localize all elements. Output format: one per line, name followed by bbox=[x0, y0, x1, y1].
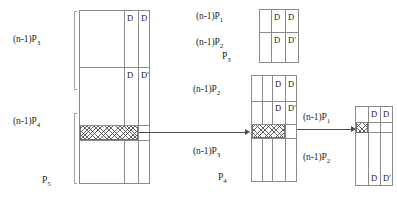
left-brace-tick-bottom bbox=[74, 183, 77, 184]
right-col-sep-2 bbox=[380, 106, 381, 186]
right-label-p1-text: (n-1)P bbox=[303, 112, 327, 122]
mid-top-label-p3: P3 bbox=[222, 52, 231, 62]
left-label-p4-sub: 4 bbox=[37, 121, 40, 129]
mid-top-label-p3-sub: 3 bbox=[227, 56, 230, 64]
right-d-cell-2: D bbox=[383, 110, 389, 119]
mid-top-d-cell-3: D bbox=[274, 36, 280, 45]
left-brace-tick-lowtop bbox=[74, 113, 77, 114]
mid-bot-row-sep-1 bbox=[251, 101, 297, 102]
mid-top-label-p2-sub: 2 bbox=[220, 42, 223, 50]
left-d-cell-4: D' bbox=[141, 71, 149, 80]
left-label-p5: P5 bbox=[42, 176, 51, 186]
mid-top-d-cell-2: D bbox=[288, 13, 294, 22]
right-d-cell-4: D' bbox=[383, 174, 391, 183]
mid-top-d-cell-4: D' bbox=[288, 36, 296, 45]
left-brace-tick-top bbox=[74, 11, 77, 12]
right-label-p1-sub: 1 bbox=[327, 117, 330, 125]
arrow-left-to-middle-head bbox=[245, 129, 250, 135]
mid-top-label-p2: (n-1)P2 bbox=[196, 38, 223, 48]
mid-bottom-label-p4-sub: 4 bbox=[223, 177, 226, 185]
mid-bot-d-cell-4: D' bbox=[288, 104, 296, 113]
mid-bot-d-cell-1: D bbox=[275, 80, 281, 89]
mid-bot-row-sep-3 bbox=[251, 138, 297, 139]
mid-bottom-label-p2-sub: 2 bbox=[217, 89, 220, 97]
mid-bottom-hatched-band bbox=[252, 124, 285, 138]
left-label-p4-text: (n-1)P bbox=[13, 116, 37, 126]
left-row-sep-2 bbox=[79, 125, 150, 126]
mid-top-col-sep-2 bbox=[285, 9, 286, 63]
left-row-sep-1 bbox=[79, 67, 150, 68]
left-label-p3-text: (n-1)P bbox=[13, 34, 37, 44]
mid-bot-d-cell-3: D bbox=[275, 104, 281, 113]
right-d-cell-3: D bbox=[371, 174, 377, 183]
mid-top-label-p1: (n-1)P1 bbox=[196, 12, 223, 22]
left-col-sep-2 bbox=[138, 10, 139, 184]
left-brace-tick-mid bbox=[74, 89, 77, 90]
left-label-p3-sub: 3 bbox=[37, 39, 40, 47]
left-hatched-band bbox=[80, 125, 138, 140]
right-d-cell-1: D bbox=[371, 110, 377, 119]
right-label-p2-text: (n-1)P bbox=[303, 152, 327, 162]
arrow-middle-to-right-line bbox=[297, 129, 351, 130]
mid-bottom-label-p3-text: (n-1)P bbox=[193, 146, 217, 156]
left-d-cell-3: D bbox=[127, 71, 133, 80]
mid-bot-col-sep-3 bbox=[285, 75, 286, 182]
mid-bot-row-sep-2 bbox=[251, 124, 297, 125]
arrow-left-to-middle-line bbox=[139, 132, 245, 133]
left-brace-lower bbox=[74, 113, 75, 183]
right-col-sep-1 bbox=[368, 106, 369, 186]
right-hatched-band bbox=[356, 122, 368, 133]
mid-top-label-p2-text: (n-1)P bbox=[196, 37, 220, 47]
right-label-p2: (n-1)P2 bbox=[303, 153, 330, 163]
mid-bottom-label-p3-sub: 3 bbox=[217, 151, 220, 159]
mid-top-col-sep-1 bbox=[271, 9, 272, 63]
right-row-sep-2 bbox=[355, 122, 393, 123]
left-d-cell-2: D bbox=[141, 14, 147, 23]
left-diagram-box bbox=[79, 10, 150, 184]
mid-bottom-label-p4: P4 bbox=[218, 173, 227, 183]
left-row-sep-3 bbox=[79, 140, 150, 141]
mid-top-label-p1-text: (n-1)P bbox=[196, 11, 220, 21]
mid-bottom-label-p2-text: (n-1)P bbox=[193, 84, 217, 94]
diagram-canvas: D D D D' (n-1)P3 (n-1)P4 P5 D D D D' (n-… bbox=[0, 0, 397, 201]
mid-top-row-sep-1 bbox=[259, 32, 299, 33]
mid-bot-d-cell-2: D bbox=[288, 80, 294, 89]
right-label-p2-sub: 2 bbox=[327, 157, 330, 165]
mid-top-d-cell-1: D bbox=[274, 13, 280, 22]
right-label-p1: (n-1)P1 bbox=[303, 113, 330, 123]
mid-bottom-label-p3: (n-1)P3 bbox=[193, 147, 220, 157]
left-brace-upper bbox=[74, 11, 75, 89]
left-label-p4: (n-1)P4 bbox=[13, 117, 40, 127]
mid-bottom-label-p2: (n-1)P2 bbox=[193, 85, 220, 95]
mid-top-label-p1-sub: 1 bbox=[220, 16, 223, 24]
left-d-cell-1: D bbox=[127, 14, 133, 23]
left-col-sep-1 bbox=[124, 10, 125, 184]
left-label-p5-sub: 5 bbox=[47, 180, 50, 188]
left-label-p3: (n-1)P3 bbox=[13, 35, 40, 45]
